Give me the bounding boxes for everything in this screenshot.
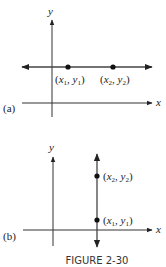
figure-canvas: y x (x1, y1) (x2, y2) (a) y x (x2, y2) (… [0,0,166,267]
point-a-1-label: (x1, y1) [55,73,85,87]
point-a-2-label: (x2, y2) [100,73,130,87]
y-axis-label-b: y [48,141,54,153]
point-b-2 [94,173,99,178]
point-b-2-label: (x2, y2) [103,170,133,184]
point-a-1 [65,64,70,69]
panel-b-label: (b) [3,230,16,243]
y-axis-label-a: y [47,5,53,17]
point-a-2 [110,64,115,69]
point-b-1-label: (x1, y1) [103,214,133,228]
panel-a-label: (a) [3,102,16,115]
panel-b: y x (x2, y2) (x1, y1) (b) [3,141,161,247]
panel-a: y x (x1, y1) (x2, y2) (a) [3,5,161,117]
figure-caption: FIGURE 2-30 [66,255,129,266]
x-axis-label-b: x [155,223,161,235]
x-axis-label-a: x [155,96,161,108]
point-b-1 [94,217,99,222]
